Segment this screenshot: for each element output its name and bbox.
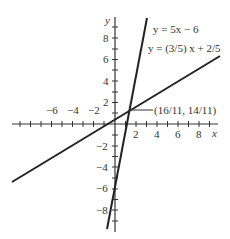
y-tick-label: −8 bbox=[96, 204, 108, 216]
y-tick-label: −6 bbox=[96, 182, 108, 194]
x-axis-label: x bbox=[211, 127, 217, 139]
y-tick-label: 8 bbox=[103, 32, 109, 44]
x-tick-label: −4 bbox=[67, 104, 79, 116]
graph: y x y = 5x − 6 y = (3/5) x + 2/5 (16/11,… bbox=[0, 0, 230, 239]
x-tick-label: 8 bbox=[196, 128, 202, 140]
y-tick-label: −2 bbox=[96, 140, 108, 152]
equation-2-label: y = (3/5) x + 2/5 bbox=[148, 42, 221, 55]
equation-1-label: y = 5x − 6 bbox=[153, 23, 199, 35]
intersection-label: (16/11, 14/11) bbox=[154, 104, 216, 117]
y-tick-label: 6 bbox=[103, 53, 109, 65]
x-tick-label: 4 bbox=[154, 128, 160, 140]
y-tick-label: −4 bbox=[96, 161, 108, 173]
x-tick-label: −2 bbox=[88, 104, 100, 116]
x-tick-label: 6 bbox=[175, 128, 181, 140]
x-tick-label: 2 bbox=[133, 128, 139, 140]
y-tick-label: 2 bbox=[103, 96, 109, 108]
x-tick-label: −6 bbox=[46, 104, 58, 116]
y-axis-label: y bbox=[104, 14, 110, 26]
y-tick-label: 4 bbox=[103, 75, 109, 87]
line-y-3-5x-plus-2-5 bbox=[12, 56, 220, 182]
